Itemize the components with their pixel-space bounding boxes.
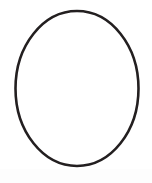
ellipse-outline-shape <box>16 11 139 166</box>
ellipse-figure-svg <box>0 0 152 183</box>
bottom-light-band <box>0 169 152 183</box>
image-canvas <box>0 0 152 183</box>
